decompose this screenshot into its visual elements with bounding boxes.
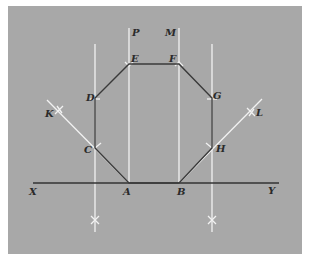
label-f: F — [168, 53, 177, 64]
label-y: Y — [268, 185, 276, 196]
label-k: K — [44, 108, 55, 119]
label-c: C — [84, 144, 92, 155]
label-d: D — [85, 92, 95, 103]
arc-mark-c — [95, 143, 101, 148]
arc-mark-l — [247, 108, 255, 116]
label-h: H — [215, 143, 226, 154]
label-g: G — [213, 90, 222, 101]
arc-mark-h — [206, 143, 212, 148]
label-a: A — [122, 186, 131, 197]
label-m: M — [164, 27, 177, 38]
label-e: E — [130, 53, 139, 64]
label-b: B — [176, 186, 185, 197]
octagon — [95, 64, 212, 183]
label-x: X — [28, 186, 38, 197]
label-l: L — [255, 107, 263, 118]
octagon-construction-diagram: X Y A B C D E F G H P M K L — [0, 0, 309, 262]
label-p: P — [131, 27, 140, 38]
